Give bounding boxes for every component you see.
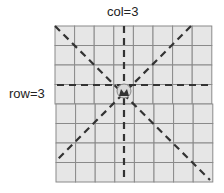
grid-cell [75, 65, 95, 85]
grid-cell [94, 46, 114, 66]
board-diagram [0, 0, 224, 193]
grid-cell [56, 104, 76, 124]
grid-cell [95, 104, 115, 124]
grid-cell [134, 124, 154, 144]
grid-cell [154, 104, 174, 124]
grid-cell [55, 65, 75, 85]
grid-cell [193, 124, 213, 144]
grid-cell [95, 163, 115, 183]
grid-cell [153, 26, 173, 46]
grid-cell [193, 143, 213, 163]
grid-cell [133, 85, 153, 105]
grid-cell [94, 85, 114, 105]
grid-cell [133, 26, 153, 46]
grid-cell [95, 124, 115, 144]
grid-cell [153, 65, 173, 85]
grid-cell [94, 26, 114, 46]
grid-cell [173, 46, 193, 66]
grid-cell [75, 85, 95, 105]
grid-cell [174, 163, 194, 183]
grid-cell [174, 104, 194, 124]
grid-cell [56, 163, 76, 183]
grid-cell [193, 104, 213, 124]
grid-cell [173, 85, 193, 105]
grid-cell [192, 85, 212, 105]
grid-cell [154, 143, 174, 163]
grid-cell [133, 46, 153, 66]
grid-cell [154, 163, 174, 183]
grid-cell [56, 143, 76, 163]
grid-cell [192, 46, 212, 66]
grid-cell [192, 65, 212, 85]
grid-cell [134, 163, 154, 183]
grid-cell [153, 85, 173, 105]
grid-cell [192, 26, 212, 46]
grid-cell [174, 124, 194, 144]
grid-cell [55, 46, 75, 66]
queen-icon [117, 84, 131, 98]
grid-cell [134, 143, 154, 163]
grid-cell [75, 26, 95, 46]
grid-cell [76, 163, 96, 183]
grid-cell [95, 143, 115, 163]
grid-cell [56, 124, 76, 144]
grid-cell [76, 104, 96, 124]
grid-cell [76, 143, 96, 163]
grid-cell [76, 124, 96, 144]
grid-cell [173, 65, 193, 85]
grid-cell [55, 85, 75, 105]
